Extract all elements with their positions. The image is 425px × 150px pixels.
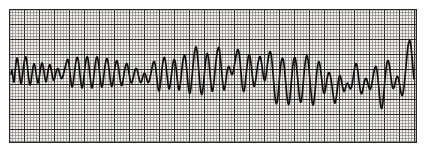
ecg-trace-path [11, 40, 414, 108]
ecg-rhythm-strip [0, 0, 425, 150]
ecg-waveform-trace [0, 0, 425, 150]
